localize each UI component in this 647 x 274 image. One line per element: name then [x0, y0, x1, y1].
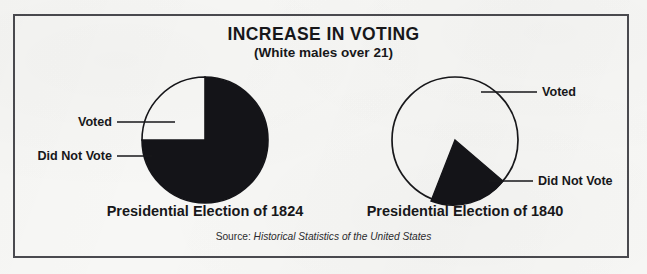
- pie-1824-label-voted: Voted: [20, 115, 112, 129]
- figure-subtitle: (White males over 21): [0, 45, 647, 60]
- source-prefix: Source:: [216, 231, 251, 242]
- pie-1840-caption: Presidential Election of 1840: [315, 203, 615, 219]
- figure-title: INCREASE IN VOTING: [0, 24, 647, 45]
- source-note: Source: Historical Statistics of the Uni…: [0, 231, 647, 242]
- pie-1824-caption: Presidential Election of 1824: [55, 203, 355, 219]
- source-title: Historical Statistics of the United Stat…: [254, 231, 432, 242]
- pie-1840-label-did-not-vote: Did Not Vote: [538, 174, 613, 188]
- pie-1840-label-voted: Voted: [542, 85, 576, 99]
- pie-1824-label-did-not-vote: Did Not Vote: [6, 149, 112, 163]
- figure-panel: INCREASE IN VOTING (White males over 21)…: [0, 0, 647, 274]
